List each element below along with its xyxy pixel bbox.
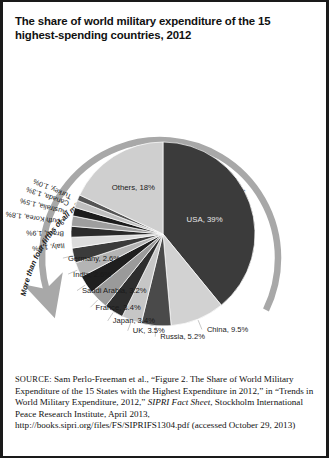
source-label: SOURCE: bbox=[15, 375, 52, 384]
leader-line bbox=[198, 320, 202, 329]
pie-slice-label: Saudi Arabia, 3.2% bbox=[82, 286, 147, 295]
pie-chart-svg: More than four-fifths of all military ex… bbox=[3, 60, 328, 365]
page-title: The share of world military expenditure … bbox=[15, 14, 315, 42]
pie-slice-label: Italy, 1.9% bbox=[31, 241, 65, 252]
source-italic-1: SIPRI Fact Sheet bbox=[148, 397, 211, 407]
pie-slice-label: Germany, 2.6% bbox=[68, 254, 120, 263]
pie-slice-label: India, 2.6% bbox=[73, 270, 111, 279]
pie-chart: More than four-fifths of all military ex… bbox=[3, 60, 328, 365]
pie-slice-label: USA, 39% bbox=[187, 215, 223, 224]
pie-slice-label: Brazil, 1.9% bbox=[25, 229, 64, 238]
pie-slice-label: Others, 18% bbox=[112, 183, 155, 192]
pie-slice-label: UK, 3.5% bbox=[133, 326, 165, 335]
pie-slice-label: Russia, 5.2% bbox=[160, 332, 205, 341]
pie-slice-label: Japan, 3.4% bbox=[113, 316, 155, 325]
pie-slices bbox=[71, 142, 255, 326]
source-citation: SOURCE: Sam Perlo-Freeman et al., “Figur… bbox=[15, 374, 319, 432]
pie-slice-label: France, 3.4% bbox=[96, 303, 141, 312]
figure-container: The share of world military expenditure … bbox=[0, 0, 329, 458]
pie-slice-label: China, 9.5% bbox=[207, 325, 249, 334]
